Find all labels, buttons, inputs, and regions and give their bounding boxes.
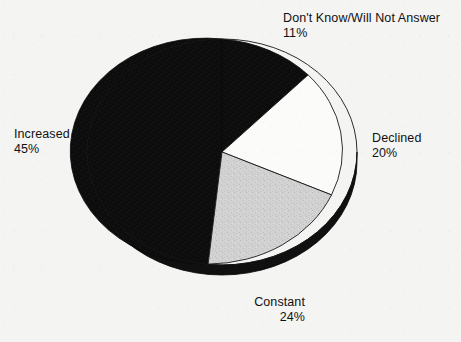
slice-label-constant: Constant 24% (205, 295, 305, 325)
slice-label-dont-know-value: 11% (283, 26, 440, 41)
slice-label-declined-text: Declined (372, 131, 421, 146)
pie-slice-increased (70, 38, 222, 264)
slice-label-dont-know-text: Don't Know/Will Not Answer (283, 11, 440, 26)
slice-label-declined: Declined 20% (372, 131, 421, 161)
slice-label-declined-value: 20% (372, 146, 421, 161)
pie-slices (70, 38, 357, 265)
slice-label-constant-value: 24% (205, 310, 305, 325)
slice-label-increased-value: 45% (14, 142, 70, 157)
slice-label-increased-text: Increased (14, 127, 70, 142)
slice-label-constant-text: Constant (205, 295, 305, 310)
pie-chart-graphic (0, 0, 461, 342)
slice-label-increased: Increased 45% (14, 127, 70, 157)
slice-label-dont-know: Don't Know/Will Not Answer 11% (283, 11, 440, 41)
pie-chart-figure: Don't Know/Will Not Answer 11% Declined … (0, 0, 461, 342)
